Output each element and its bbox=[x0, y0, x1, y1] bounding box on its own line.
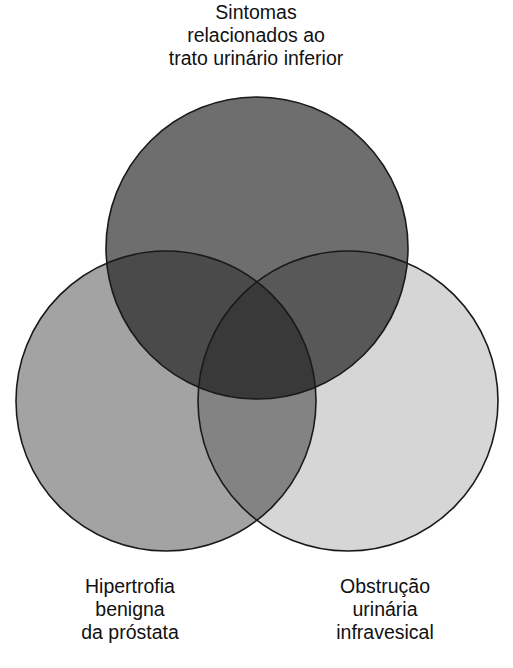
label-obstruction-line-1: Obstrução bbox=[285, 575, 485, 598]
label-obstruction-line-2: urinária bbox=[285, 598, 485, 621]
label-luts-line-3: trato urinário inferior bbox=[106, 47, 406, 70]
label-obstruction: Obstrução urinária infravesical bbox=[285, 575, 485, 644]
label-hpb-line-2: benigna bbox=[30, 598, 230, 621]
label-obstruction-line-3: infravesical bbox=[285, 621, 485, 644]
label-hpb-line-3: da próstata bbox=[30, 621, 230, 644]
label-hpb: Hipertrofia benigna da próstata bbox=[30, 575, 230, 644]
label-luts-line-2: relacionados ao bbox=[106, 24, 406, 47]
venn-diagram bbox=[0, 0, 513, 668]
label-luts: Sintomas relacionados ao trato urinário … bbox=[106, 1, 406, 70]
label-hpb-line-1: Hipertrofia bbox=[30, 575, 230, 598]
label-luts-line-1: Sintomas bbox=[106, 1, 406, 24]
